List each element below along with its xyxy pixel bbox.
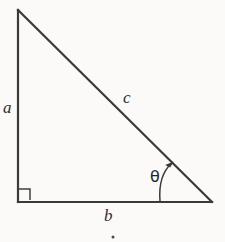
right-angle-marker-icon — [19, 189, 30, 200]
label-side-b: b — [104, 207, 113, 224]
label-side-a: a — [3, 99, 12, 116]
angle-arc-icon — [160, 163, 172, 201]
stray-mark — [112, 236, 115, 239]
right-triangle-figure: a b c θ — [0, 0, 225, 242]
triangle-side-c-hypotenuse — [18, 10, 212, 202]
arrowhead-icon — [165, 161, 173, 167]
label-side-c: c — [123, 89, 131, 106]
triangle-canvas — [0, 0, 225, 242]
label-angle-theta: θ — [150, 169, 160, 185]
